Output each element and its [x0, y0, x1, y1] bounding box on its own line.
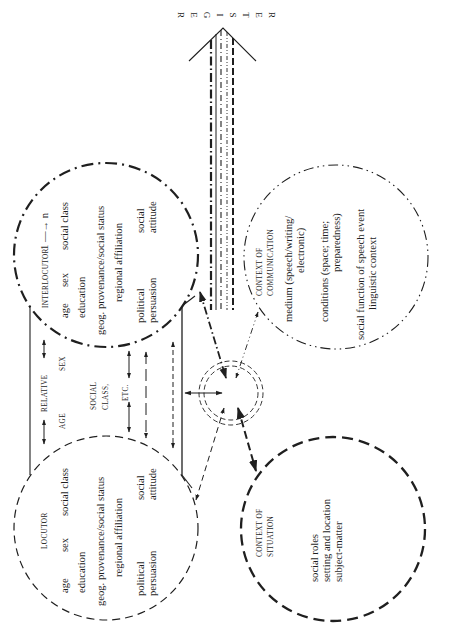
relative-sex: SEX	[59, 356, 67, 371]
locutor-sex: sex	[59, 537, 70, 552]
context-communication-preparedness: preparedness)	[331, 213, 343, 272]
locutor-social: social	[135, 475, 146, 500]
interlocutor-persuasion: persuasion	[147, 277, 158, 323]
register-letter: T	[241, 12, 251, 18]
relative-class: CLASS,	[102, 383, 110, 410]
interlocutor-age: age	[59, 303, 70, 318]
register-letter: E	[254, 12, 264, 18]
context-communication-electronic: electronic)	[295, 227, 307, 273]
register-label: R E G I S T E R	[176, 12, 277, 19]
interlocutor-attitude: attitude	[147, 201, 158, 233]
context-communication-conditions: conditions (space; time;	[319, 221, 331, 322]
relative-text: RELATIVE AGE SEX SOCIAL CLASS, ETC.	[41, 356, 130, 429]
interlocutor-range: 1 —→ n	[39, 212, 50, 250]
arrowhead	[189, 28, 256, 61]
interlocutor-social: social	[135, 208, 146, 233]
context-communication-linguistic: linguistic context	[367, 237, 378, 310]
register-letter: R	[267, 12, 277, 18]
locutor-regional: regional affiliation	[113, 497, 124, 577]
register-letter: E	[189, 12, 199, 18]
locutor-persuasion: persuasion	[147, 550, 158, 596]
locutor-geog: geog. provenance/social status	[95, 477, 106, 606]
register-letter: R	[176, 12, 186, 18]
register-letter: G	[202, 12, 212, 19]
relative-bracket	[30, 296, 195, 488]
context-situation-social-roles: social roles	[309, 534, 320, 582]
register-diagram: R E G I S T E R	[0, 0, 450, 636]
interlocutor-education: education	[76, 276, 87, 318]
context-communication-title-2: COMMUNICATION	[267, 228, 275, 296]
locutor-education: education	[76, 551, 87, 593]
context-situation-subject: subject-matter	[333, 521, 344, 582]
relative-title: RELATIVE	[41, 374, 49, 412]
interlocutor-text: INTERLOCUTOR 1 —→ n age sex social class…	[39, 201, 158, 335]
locutor-text: LOCUTOR age sex social class education g…	[41, 468, 158, 606]
context-communication-medium: medium (speech/writing/	[283, 216, 295, 322]
locutor-political: political	[135, 561, 146, 596]
locutor-social-class: social class	[59, 468, 70, 516]
interlocutor-title: INTERLOCUTOR	[42, 248, 50, 308]
relative-etc: ETC.	[122, 384, 130, 401]
relative-arrows	[44, 340, 222, 448]
interlocutor-political: political	[135, 288, 146, 323]
interlocutor-geog: geog. provenance/social status	[95, 206, 106, 335]
context-situation-title-2: SITUATION	[267, 515, 275, 557]
context-communication-social-function: social function of speech event	[355, 209, 366, 340]
locutor-attitude: attitude	[147, 468, 158, 500]
relative-social: SOCIAL	[90, 382, 98, 410]
locutor-age: age	[59, 578, 70, 593]
hub-connectors	[196, 292, 258, 500]
context-communication-title-1: CONTEXT OF	[256, 248, 264, 296]
locutor-title: LOCUTOR	[41, 512, 49, 549]
context-situation-text: CONTEXT OF SITUATION social roles settin…	[256, 498, 344, 582]
interlocutor-sex: sex	[59, 272, 70, 287]
interlocutor-regional: regional affiliation	[113, 222, 124, 302]
context-situation-setting: setting and location	[321, 498, 332, 582]
relative-age: AGE	[59, 413, 67, 429]
register-arrow	[189, 28, 256, 310]
register-letter: S	[228, 12, 238, 17]
context-communication-text: CONTEXT OF COMMUNICATION medium (speech/…	[256, 209, 378, 340]
register-letter: I	[215, 14, 225, 17]
interlocutor-social-class: social class	[59, 202, 70, 250]
context-situation-title-1: CONTEXT OF	[256, 509, 264, 557]
